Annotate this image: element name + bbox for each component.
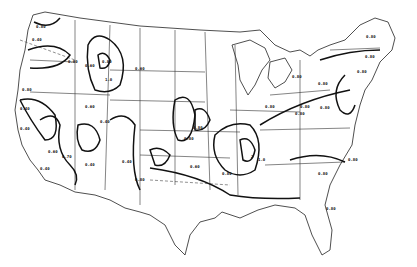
contour-label: 0.80 bbox=[365, 55, 375, 59]
contour-label: 0.80 bbox=[184, 137, 194, 141]
contour-label: 1.0 bbox=[105, 78, 112, 82]
contour-label: 0.80 bbox=[222, 172, 232, 176]
contour-label: 0.80 bbox=[366, 35, 376, 39]
contour-label: 0.80 bbox=[265, 105, 275, 109]
contour-label: 0.80 bbox=[295, 112, 305, 116]
contour-label: 0.80 bbox=[326, 207, 336, 211]
contour-label: 0.40 bbox=[20, 107, 30, 111]
contour-label: 0.80 bbox=[193, 126, 203, 130]
contour-label: 2 bbox=[251, 155, 253, 159]
contour-label: 0.80 bbox=[36, 25, 46, 29]
contour-label: 0.40 bbox=[20, 127, 30, 131]
contour-label: 0.80 bbox=[102, 60, 112, 64]
contour-label: 0.80 bbox=[348, 158, 358, 162]
contour-label: 0.40 bbox=[85, 163, 95, 167]
contour-label: 0.80 bbox=[320, 106, 330, 110]
contour-label: 0.80 bbox=[318, 82, 328, 86]
us-map-outline bbox=[0, 0, 417, 267]
contour-label: 0.40 bbox=[100, 120, 110, 124]
contour-label: 0.80 bbox=[300, 105, 310, 109]
contour-label: 0.80 bbox=[292, 75, 302, 79]
contour-label: 1.0 bbox=[258, 158, 265, 162]
contour-label: 0.40 bbox=[40, 167, 50, 171]
contour-map: 0.80 0.40 0.80 0.60 0.80 1.0 0.60 0.80 0… bbox=[0, 0, 417, 267]
contour-label: 0.60 bbox=[85, 64, 95, 68]
contour-label: 0.80 bbox=[68, 60, 78, 64]
contour-label: 0.80 bbox=[22, 88, 32, 92]
contour-label: 0.70 bbox=[62, 155, 72, 159]
contour-label: 0.40 bbox=[122, 160, 132, 164]
contour-label: 0.60 bbox=[190, 165, 200, 169]
contour-label: 0.60 bbox=[85, 105, 95, 109]
contour-label: 0.80 bbox=[357, 70, 367, 74]
contour-label: 0.80 bbox=[318, 172, 328, 176]
contour-label: 0.60 bbox=[48, 150, 58, 154]
contour-label: 0.60 bbox=[135, 67, 145, 71]
contour-label: 0.80 bbox=[135, 178, 145, 182]
contour-label: 0.40 bbox=[32, 38, 42, 42]
